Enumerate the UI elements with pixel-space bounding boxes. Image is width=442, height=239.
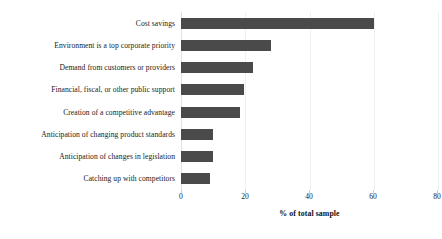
category-label: Cost savings — [136, 12, 175, 34]
bar-chart: Cost savings Environment is a top corpor… — [0, 0, 442, 239]
category-label: Catching up with competitors — [84, 168, 175, 190]
x-tick-label: 0 — [179, 192, 183, 201]
bar-financial-support — [181, 84, 244, 95]
category-label: Anticipation of changes in legislation — [59, 146, 175, 168]
bar-row — [181, 79, 438, 101]
x-tick-label: 20 — [241, 192, 249, 201]
bar-legislation-changes — [181, 151, 213, 162]
category-label: Financial, fiscal, or other public suppo… — [51, 79, 175, 101]
category-axis-labels: Cost savings Environment is a top corpor… — [0, 12, 178, 190]
bar-row — [181, 12, 438, 34]
bar-environment-priority — [181, 40, 271, 51]
bar-product-standards — [181, 129, 213, 140]
bar-competitive-advantage — [181, 107, 240, 118]
bar-row — [181, 57, 438, 79]
category-label: Demand from customers or providers — [59, 57, 175, 79]
category-label: Creation of a competitive advantage — [63, 101, 175, 123]
bar-cost-savings — [181, 18, 374, 29]
bar-demand-customers — [181, 62, 253, 73]
category-label: Environment is a top corporate priority — [54, 34, 175, 56]
bar-row — [181, 34, 438, 56]
bar-catching-competitors — [181, 173, 210, 184]
bar-row — [181, 168, 438, 190]
x-tick-label: 80 — [433, 192, 441, 201]
category-label: Anticipation of changing product standar… — [41, 123, 175, 145]
gridline — [438, 12, 439, 190]
bar-row — [181, 146, 438, 168]
bar-row — [181, 123, 438, 145]
x-tick-label: 60 — [369, 192, 377, 201]
x-axis-title: % of total sample — [181, 209, 438, 218]
plot-area — [181, 12, 438, 190]
bar-series — [181, 12, 438, 190]
x-tick-label: 40 — [305, 192, 313, 201]
bar-row — [181, 101, 438, 123]
